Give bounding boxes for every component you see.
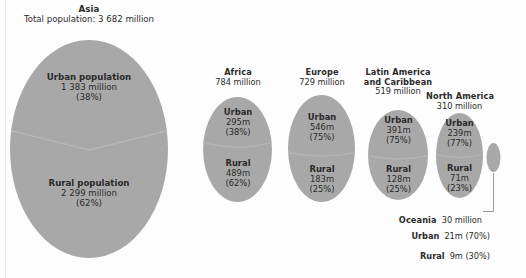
africa-rural-percent: (62%)	[208, 179, 268, 189]
label-europe-urban: Urban 546m (75%)	[293, 113, 351, 143]
asia-name: Asia	[13, 4, 165, 14]
label-oceania-breakdown: Urban 21m (70%) Rural 9m (30%)	[396, 224, 490, 264]
label-north-america-urban: Urban 239m (77%)	[436, 119, 483, 149]
asia-urban-value: 1 383 million	[29, 82, 149, 92]
label-africa-urban: Urban 295m (38%)	[208, 108, 268, 138]
label-north-america-header: North America 310 million	[426, 92, 493, 111]
label-latin-america-rural: Rural 128m (25%)	[370, 165, 427, 195]
label-europe-rural: Rural 183m (25%)	[293, 165, 351, 195]
label-north-america-rural: Rural 71m (23%)	[436, 164, 483, 194]
asia-rural-value: 2 299 million	[29, 188, 149, 198]
asia-rural-name: Rural population	[29, 178, 149, 188]
north-america-rural-percent: (23%)	[436, 184, 483, 194]
ellipse-oceania	[487, 143, 501, 172]
label-asia-urban: Urban population 1 383 million (38%)	[29, 72, 149, 102]
north-america-urban-percent: (77%)	[436, 139, 483, 149]
latin-america-total: 519 million	[362, 87, 434, 97]
oceania-urban-row: Urban 21m (70%)	[396, 224, 490, 244]
label-africa-header: Africa 784 million	[203, 68, 273, 87]
asia-total: Total population: 3 682 million	[13, 14, 165, 24]
oceania-urban-name: Urban	[411, 231, 439, 241]
europe-total: 729 million	[286, 78, 358, 88]
africa-total: 784 million	[203, 78, 273, 88]
europe-urban-percent: (75%)	[293, 133, 351, 143]
latin-america-rural-percent: (25%)	[370, 185, 427, 195]
label-latin-america-urban: Urban 391m (75%)	[370, 116, 427, 146]
oceania-rural-name: Rural	[420, 251, 445, 261]
asia-urban-name: Urban population	[29, 72, 149, 82]
oceania-leader-line	[483, 173, 494, 212]
latin-america-urban-percent: (75%)	[370, 136, 427, 146]
asia-urban-percent: (38%)	[29, 92, 149, 102]
north-america-total: 310 million	[426, 102, 493, 112]
population-ellipse-chart: Asia Total population: 3 682 million Urb…	[0, 0, 526, 278]
label-latin-america-header: Latin America and Caribbean 519 million	[362, 68, 434, 97]
label-africa-rural: Rural 489m (62%)	[208, 159, 268, 189]
europe-rural-percent: (25%)	[293, 185, 351, 195]
oceania-rural-row: Rural 9m (30%)	[396, 244, 490, 264]
asia-rural-percent: (62%)	[29, 198, 149, 208]
africa-urban-percent: (38%)	[208, 128, 268, 138]
label-asia-header: Asia Total population: 3 682 million	[13, 4, 165, 24]
oceania-urban-value: 21m (70%)	[444, 231, 490, 241]
label-asia-rural: Rural population 2 299 million (62%)	[29, 178, 149, 208]
label-europe-header: Europe 729 million	[286, 68, 358, 87]
oceania-rural-value: 9m (30%)	[450, 251, 490, 261]
